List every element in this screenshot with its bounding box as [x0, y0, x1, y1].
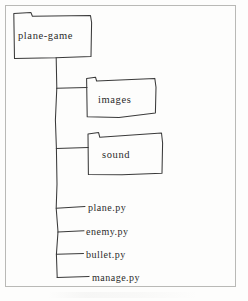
branch-line-bullet-py [56, 254, 83, 255]
tree-trunk-line [55, 58, 58, 278]
scan-artifact [48, 292, 198, 298]
branch-line-manage-py [57, 276, 89, 277]
file-label-plane-py: plane.py [88, 202, 126, 213]
folder-label-images: images [98, 94, 131, 105]
folder-label-root: plane-game [18, 30, 73, 41]
branch-line-sound [56, 148, 88, 149]
folder-label-sound: sound [102, 149, 130, 160]
file-label-enemy-py: enemy.py [86, 226, 129, 237]
file-label-manage-py: manage.py [92, 272, 140, 283]
branch-line-plane-py [56, 207, 85, 209]
file-label-bullet-py: bullet.py [86, 249, 126, 260]
branch-line-enemy-py [58, 231, 84, 232]
branch-line-images [57, 88, 87, 89]
file-tree-diagram: plane-game images sound plane.py enemy.p… [0, 0, 248, 301]
